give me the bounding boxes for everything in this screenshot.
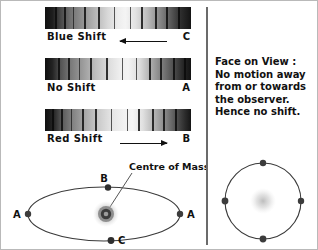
orbit-label-b: B bbox=[100, 173, 108, 184]
absorption-line bbox=[106, 58, 108, 80]
absorption-line bbox=[82, 109, 84, 131]
absorption-line bbox=[141, 7, 143, 29]
spectrum-label-no: No Shift bbox=[47, 82, 96, 93]
spectrum-no-shift: No Shift A bbox=[45, 58, 191, 98]
absorption-line bbox=[175, 109, 177, 131]
face-on-view-line-2: No motion away bbox=[215, 69, 315, 82]
spectrum-continuum-red bbox=[45, 109, 191, 131]
spectrum-label-red: Red Shift bbox=[47, 133, 103, 144]
absorption-line bbox=[95, 109, 97, 131]
orbit-point-a-left bbox=[25, 211, 31, 217]
orbit-point-a-right bbox=[177, 211, 183, 217]
absorption-line bbox=[152, 109, 154, 131]
face-on-orbit-diagram bbox=[208, 151, 318, 250]
absorption-line bbox=[98, 7, 100, 29]
face-on-point-right bbox=[298, 198, 304, 204]
figure-root: Blue Shift C No Shift A bbox=[0, 0, 318, 250]
face-on-view-line-1: Face on View : bbox=[215, 56, 315, 69]
spectrum-red-shift: Red Shift B bbox=[45, 109, 191, 149]
arrow-head bbox=[161, 140, 168, 146]
spectrum-label-blue: Blue Shift bbox=[47, 31, 106, 42]
face-on-view-line-5: Hence no shift. bbox=[215, 106, 315, 119]
absorption-line bbox=[155, 7, 157, 29]
absorption-line bbox=[71, 109, 72, 131]
absorption-line bbox=[173, 58, 175, 80]
spectrum-continuum-blue bbox=[45, 7, 191, 29]
absorption-line bbox=[55, 7, 57, 29]
absorption-line bbox=[160, 58, 162, 80]
spectrum-blue-shift: Blue Shift C bbox=[45, 7, 191, 47]
face-on-view-line-3: from or towards bbox=[215, 81, 315, 94]
spectrum-letter-a: A bbox=[182, 82, 190, 93]
absorption-line bbox=[68, 58, 70, 80]
orbit-label-a-right: A bbox=[187, 209, 195, 220]
orbit-label-a-left: A bbox=[13, 209, 21, 220]
absorption-line bbox=[178, 7, 180, 29]
absorption-line bbox=[130, 7, 131, 29]
spectrum-caption-no: No Shift A bbox=[45, 80, 191, 98]
centre-of-mass-core bbox=[104, 212, 109, 217]
face-on-point-left bbox=[222, 198, 229, 205]
face-on-view-line-4: the observer. bbox=[215, 94, 315, 107]
absorption-line bbox=[64, 7, 66, 29]
face-on-centre-glow bbox=[250, 188, 276, 214]
absorption-line bbox=[122, 58, 123, 80]
absorption-line bbox=[114, 7, 115, 29]
absorption-line bbox=[127, 109, 128, 131]
absorption-line bbox=[166, 7, 168, 29]
spectrum-letter-c: C bbox=[183, 31, 190, 42]
edge-on-orbit-diagram: Centre of Mass B C A A bbox=[1, 156, 206, 250]
arrow-shaft bbox=[120, 41, 167, 42]
absorption-line bbox=[52, 109, 54, 131]
arrow-head bbox=[119, 38, 126, 44]
spectrum-strip-blue bbox=[45, 7, 191, 29]
spectrum-strip-red bbox=[45, 109, 191, 131]
absorption-line bbox=[73, 7, 74, 29]
absorption-line bbox=[90, 58, 92, 80]
absorption-line bbox=[138, 109, 140, 131]
absorption-line bbox=[79, 58, 80, 80]
orbit-point-b-top bbox=[105, 184, 111, 190]
absorption-line bbox=[136, 58, 137, 80]
orbit-point-c-bottom bbox=[108, 237, 115, 244]
spectrum-caption-red: Red Shift B bbox=[45, 131, 191, 149]
absorption-line bbox=[61, 109, 63, 131]
spectrum-strip-no bbox=[45, 58, 191, 80]
absorption-line bbox=[111, 109, 112, 131]
arrow-right-icon bbox=[120, 140, 167, 147]
spectrum-letter-b: B bbox=[182, 133, 190, 144]
spectrum-continuum-no bbox=[45, 58, 191, 80]
absorption-line bbox=[58, 58, 60, 80]
face-on-point-bottom bbox=[260, 236, 267, 243]
arrow-left-icon bbox=[120, 38, 167, 45]
orbit-label-c: C bbox=[118, 235, 125, 246]
absorption-line bbox=[163, 109, 165, 131]
spectrum-caption-blue: Blue Shift C bbox=[45, 29, 191, 47]
absorption-line bbox=[184, 58, 186, 80]
face-on-view-text: Face on View : No motion away from or to… bbox=[215, 56, 315, 119]
absorption-line bbox=[84, 7, 86, 29]
absorption-line bbox=[149, 58, 151, 80]
face-on-point-top bbox=[260, 160, 266, 166]
arrow-shaft bbox=[120, 143, 167, 144]
centre-of-mass-label: Centre of Mass bbox=[129, 161, 206, 172]
